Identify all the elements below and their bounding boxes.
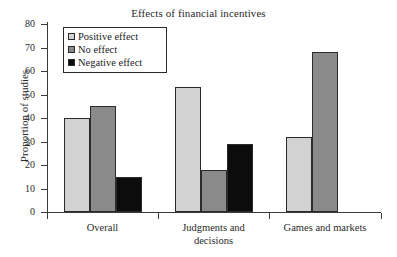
y-tick-label-20: 20	[5, 160, 35, 170]
legend-swatch-icon-1	[68, 46, 75, 53]
legend-item-1: No effect	[68, 43, 162, 56]
x-category-label-2: Games and markets	[269, 222, 381, 235]
chart-title: Effects of financial incentives	[0, 7, 397, 20]
bar-1-0	[175, 87, 201, 212]
y-tick-label-40: 40	[5, 113, 35, 123]
legend-swatch-icon-0	[68, 33, 75, 40]
legend-swatch-icon-2	[68, 59, 75, 66]
y-tick-label-50: 50	[5, 90, 35, 100]
legend-label-2: Negative effect	[78, 57, 142, 68]
y-tick-label-70: 70	[5, 43, 35, 53]
y-tick-label-0: 0	[5, 207, 35, 217]
y-tick-label-60: 60	[5, 66, 35, 76]
legend-item-2: Negative effect	[68, 56, 162, 69]
bar-0-2	[116, 177, 142, 212]
x-tick-1	[158, 213, 159, 219]
legend-item-0: Positive effect	[68, 30, 162, 43]
x-axis-line	[45, 212, 381, 213]
y-tick-label-10: 10	[5, 184, 35, 194]
y-tick-label-80: 80	[5, 19, 35, 29]
bar-0-1	[90, 106, 116, 212]
legend-label-0: Positive effect	[78, 31, 138, 42]
x-tick-0	[47, 213, 48, 219]
legend-label-1: No effect	[78, 44, 117, 55]
bar-chart-figure: Effects of financial incentives Proporti…	[0, 0, 397, 257]
bar-2-0	[286, 137, 312, 212]
x-tick-3	[381, 213, 382, 219]
bar-1-1	[201, 170, 227, 212]
x-category-label-0: Overall	[47, 222, 158, 235]
y-tick-label-30: 30	[5, 137, 35, 147]
bar-1-2	[227, 144, 253, 212]
bar-0-0	[64, 118, 90, 212]
x-category-label-1: Judgments anddecisions	[158, 222, 269, 247]
bar-2-1	[312, 52, 338, 212]
x-tick-2	[269, 213, 270, 219]
chart-legend: Positive effectNo effectNegative effect	[63, 27, 167, 73]
